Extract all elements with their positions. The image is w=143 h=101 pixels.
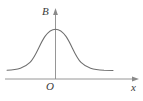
plot-canvas [0,0,143,101]
y-axis-label: B [42,6,49,17]
bell-curve-figure: B x O [0,0,143,101]
x-axis-label: x [131,82,136,93]
origin-label: O [46,81,54,92]
bell-curve-path [7,29,113,70]
y-axis-arrowhead [53,8,58,15]
